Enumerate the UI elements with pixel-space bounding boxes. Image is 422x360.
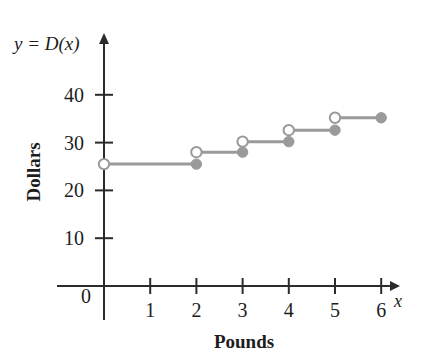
x-tick-label: 6 <box>376 299 386 321</box>
closed-endpoint-dot <box>376 113 386 123</box>
y-tick-label: 10 <box>64 227 84 249</box>
function-label: y = D(x) <box>12 33 80 55</box>
step-function-chart: 123456 10203040 0 y = D(x) x Pounds Doll… <box>0 0 422 360</box>
x-tick-label: 3 <box>238 299 248 321</box>
open-endpoint-dot <box>284 125 294 135</box>
y-tick-label: 20 <box>64 179 84 201</box>
y-tick-label: 30 <box>64 132 84 154</box>
closed-endpoint-dot <box>284 136 294 146</box>
origin-label: 0 <box>81 285 91 307</box>
y-axis-arrowhead <box>99 33 109 44</box>
x-tick-label: 5 <box>330 299 340 321</box>
figure-container: 123456 10203040 0 y = D(x) x Pounds Doll… <box>0 0 422 360</box>
closed-endpoint-dot <box>330 125 340 135</box>
open-endpoint-dot <box>191 147 201 157</box>
x-axis-arrowhead <box>390 281 400 291</box>
y-tick-label: 40 <box>64 84 84 106</box>
x-tick-label: 2 <box>191 299 201 321</box>
x-axis-title: Pounds <box>214 331 274 352</box>
closed-endpoint-dot <box>191 159 201 169</box>
open-endpoint-dot <box>99 159 109 169</box>
x-axis-variable-label: x <box>393 291 402 311</box>
y-axis-title: Dollars <box>23 142 44 201</box>
y-tick-labels: 10203040 <box>64 84 84 249</box>
open-endpoint-dot <box>330 113 340 123</box>
closed-endpoint-dot <box>237 147 247 157</box>
step-endpoint-dots <box>99 113 387 170</box>
axes-group <box>57 33 400 320</box>
x-tick-labels: 123456 <box>145 299 386 321</box>
x-tick-label: 1 <box>145 299 155 321</box>
x-tick-label: 4 <box>284 299 294 321</box>
open-endpoint-dot <box>237 136 247 146</box>
